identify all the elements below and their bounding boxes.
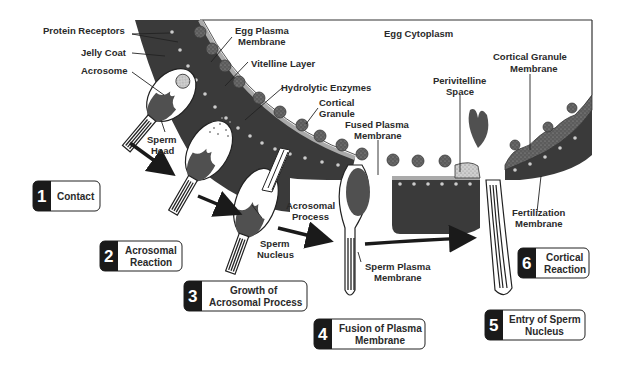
label-protein-receptors: Protein Receptors [43, 25, 125, 36]
step-6-box: 6 Cortical Reaction [518, 248, 589, 278]
label-sperm-nucleus-2: Nucleus [257, 249, 294, 260]
step-4-number: 4 [318, 325, 328, 344]
step-2-label-line1: Acrosomal [125, 245, 177, 256]
label-egg-plasma-membrane-2: Membrane [238, 36, 286, 47]
step-3-label-line2: Acrosomal Process [209, 297, 303, 308]
label-sperm-nucleus-1: Sperm [260, 238, 290, 249]
step-3-number: 3 [188, 287, 197, 306]
label-fertilization-membrane-2: Membrane [515, 218, 563, 229]
label-fused-plasma-membrane-2: Membrane [354, 130, 402, 141]
step-6-number: 6 [522, 254, 531, 273]
label-hydrolytic-enzymes: Hydrolytic Enzymes [281, 82, 371, 93]
step-2-label-line2: Reaction [130, 257, 172, 268]
step-5-number: 5 [489, 316, 498, 335]
label-sperm-head-2: Head [151, 145, 174, 156]
label-fused-plasma-membrane-1: Fused Plasma [345, 119, 410, 130]
label-cortical-granule-membrane-1: Cortical Granule [493, 51, 567, 62]
step-3-label-line1: Growth of [230, 285, 278, 296]
label-perivitelline-space-1: Perivitelline [433, 75, 486, 86]
step-5-box: 5 Entry of Sperm Nucleus [485, 310, 585, 340]
fertilization-diagram: Protein Receptors Jelly Coat Acrosome Sp… [0, 0, 619, 370]
label-cortical-granule-2: Granule [319, 108, 355, 119]
label-fertilization-membrane-1: Fertilization [512, 207, 566, 218]
step-5-label-line1: Entry of Sperm [509, 314, 581, 325]
label-vitelline-layer: Vitelline Layer [251, 58, 316, 69]
label-egg-plasma-membrane-1: Egg Plasma [235, 25, 290, 36]
step-5-label-line2: Nucleus [525, 326, 564, 337]
step-4-label-line1: Fusion of Plasma [339, 323, 422, 334]
label-egg-cytoplasm: Egg Cytoplasm [384, 28, 453, 39]
label-jelly-coat: Jelly Coat [81, 47, 127, 58]
step-2-number: 2 [104, 247, 113, 266]
step-1-label: Contact [57, 191, 95, 202]
label-acrosomal-process-1: Acrosomal [286, 200, 335, 211]
step-4-box: 4 Fusion of Plasma Membrane [314, 319, 425, 349]
step-6-label-line1: Cortical [546, 252, 583, 263]
label-sperm-plasma-membrane-1: Sperm Plasma [365, 261, 431, 272]
step-1-number: 1 [37, 187, 46, 206]
step-1-box: 1 Contact [33, 181, 100, 211]
step-2-box: 2 Acrosomal Reaction [100, 241, 182, 271]
label-perivitelline-space-2: Space [446, 86, 474, 97]
label-cortical-granule-membrane-2: Membrane [510, 63, 558, 74]
label-cortical-granule-1: Cortical [319, 97, 354, 108]
label-sperm-head-1: Sperm [147, 134, 177, 145]
label-sperm-plasma-membrane-2: Membrane [374, 272, 422, 283]
label-acrosome: Acrosome [81, 65, 127, 76]
step-6-label-line2: Reaction [544, 264, 586, 275]
label-acrosomal-process-2: Process [292, 211, 329, 222]
step-3-box: 3 Growth of Acrosomal Process [184, 281, 307, 311]
step-4-label-line2: Membrane [355, 335, 405, 346]
